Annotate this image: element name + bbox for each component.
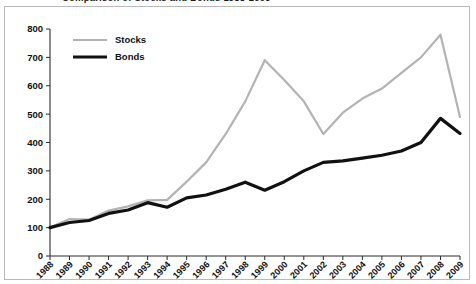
x-tick-label: 2008	[425, 259, 446, 279]
x-tick-label: 1988	[34, 259, 55, 279]
x-tick-label: 1992	[112, 259, 133, 279]
plot-frame: 0100200300400500600700800 19881989199019…	[4, 6, 470, 280]
y-tick-label: 800	[27, 23, 43, 34]
y-tick-label: 300	[27, 165, 43, 176]
x-tick-label: 2009	[444, 259, 465, 279]
x-tick-label: 1997	[210, 259, 231, 279]
x-tick-label: 1998	[229, 259, 250, 279]
chart-legend: StocksBonds	[73, 34, 146, 62]
x-tick-label: 2005	[366, 259, 387, 279]
legend-label-bonds: Bonds	[115, 51, 145, 62]
x-tick-label: 1996	[190, 259, 211, 279]
y-tick-label: 700	[27, 52, 43, 63]
x-tick-label: 1989	[54, 259, 75, 279]
x-tick-label: 2003	[327, 259, 348, 279]
series-line-bonds	[50, 118, 460, 227]
y-tick-label: 600	[27, 80, 43, 91]
x-axis: 1988198919901991199219931994199519961997…	[34, 256, 465, 279]
x-tick-label: 2002	[308, 259, 329, 279]
x-tick-label: 1995	[171, 259, 192, 279]
x-tick-label: 2000	[268, 259, 289, 279]
x-tick-label: 1994	[151, 259, 172, 279]
y-tick-label: 400	[27, 137, 43, 148]
x-tick-label: 2004	[347, 259, 368, 279]
x-tick-label: 2007	[405, 259, 426, 279]
x-tick-label: 1990	[73, 259, 94, 279]
series-lines	[50, 35, 460, 228]
x-tick-label: 1991	[93, 259, 114, 279]
page-title: Comparison of Stocks and Bonds 1988-2009	[62, 0, 271, 3]
legend-label-stocks: Stocks	[115, 34, 146, 45]
y-tick-label: 100	[27, 222, 43, 233]
line-chart: 0100200300400500600700800 19881989199019…	[5, 7, 469, 279]
y-tick-label: 200	[27, 194, 43, 205]
series-line-stocks	[50, 35, 460, 228]
y-axis: 0100200300400500600700800	[27, 23, 50, 261]
chart-figure: Comparison of Stocks and Bonds 1988-2009…	[0, 0, 476, 284]
y-tick-label: 0	[38, 250, 43, 261]
x-tick-label: 1999	[249, 259, 270, 279]
y-tick-label: 500	[27, 109, 43, 120]
x-tick-label: 2006	[386, 259, 407, 279]
x-tick-label: 1993	[132, 259, 153, 279]
chart-title-strip: Comparison of Stocks and Bonds 1988-2009	[0, 0, 476, 5]
x-tick-label: 2001	[288, 259, 309, 279]
